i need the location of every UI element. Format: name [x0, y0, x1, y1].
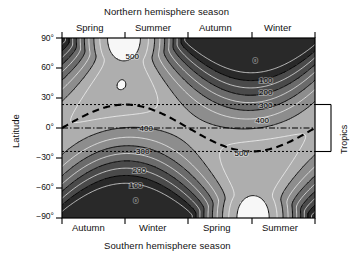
svg-text:300: 300: [259, 101, 273, 110]
contour-plot: 50001002003004004003002001000500: [62, 38, 315, 218]
plot-area: 50001002003004004003002001000500: [62, 38, 315, 218]
svg-text:0: 0: [253, 56, 258, 65]
svg-text:200: 200: [259, 88, 273, 97]
y-tick-minus60: −60°: [14, 182, 54, 192]
y-tick-minus30: −30°: [14, 152, 54, 162]
svg-text:400: 400: [256, 116, 270, 125]
svg-text:500: 500: [235, 149, 249, 158]
svg-text:400: 400: [140, 124, 154, 133]
south-season-summer: Summer: [262, 222, 298, 233]
svg-text:200: 200: [133, 166, 147, 175]
y-tick-90: 90°: [18, 33, 54, 43]
south-season-winter: Winter: [139, 222, 166, 233]
y-tick-60: 60°: [18, 62, 54, 72]
south-season-spring: Spring: [203, 222, 230, 233]
y-tick-minus90: −90°: [14, 211, 54, 221]
south-season-autumn: Autumn: [72, 222, 105, 233]
bottom-axis-title: Southern hemisphere season: [104, 240, 231, 251]
svg-text:100: 100: [259, 76, 273, 85]
svg-text:300: 300: [136, 147, 150, 156]
tropics-label: Tropics: [339, 125, 349, 154]
north-season-spring: Spring: [76, 22, 103, 33]
svg-text:100: 100: [129, 181, 143, 190]
north-season-autumn: Autumn: [199, 22, 232, 33]
insolation-contour-figure: Northern hemisphere season Spring Summer…: [0, 0, 357, 270]
top-axis-title: Northern hemisphere season: [104, 6, 229, 17]
svg-text:500: 500: [126, 52, 140, 61]
north-season-winter: Winter: [264, 22, 291, 33]
north-season-summer: Summer: [135, 22, 171, 33]
svg-text:0: 0: [134, 196, 139, 205]
y-tick-0: 0°: [18, 122, 54, 132]
y-tick-30: 30°: [18, 92, 54, 102]
